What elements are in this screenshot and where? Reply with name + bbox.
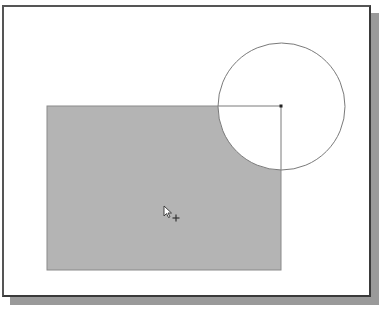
circle-center-point[interactable]: [280, 105, 283, 108]
drawing-stage: [0, 0, 381, 312]
arrow-with-crosshair-icon: [163, 205, 181, 223]
drawing-canvas[interactable]: [0, 0, 381, 312]
